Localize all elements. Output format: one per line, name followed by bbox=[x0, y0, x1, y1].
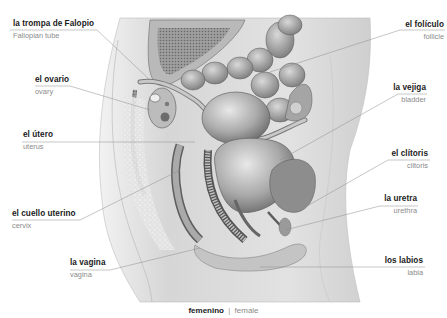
caption-en: female bbox=[235, 306, 259, 315]
label-en: follicle bbox=[405, 33, 444, 40]
label-fallopian-tube: la trompa de Falopio Fallopian tube bbox=[13, 20, 94, 39]
label-es: el folículo bbox=[405, 21, 444, 29]
label-en: uterus bbox=[23, 143, 53, 150]
label-es: la trompa de Falopio bbox=[13, 20, 94, 28]
label-en: ovary bbox=[35, 88, 69, 95]
label-es: los labios bbox=[385, 257, 423, 265]
label-en: vagina bbox=[70, 271, 106, 278]
female-pelvis-illustration bbox=[0, 0, 447, 318]
label-es: el útero bbox=[23, 131, 53, 139]
label-bladder: la vejiga bladder bbox=[393, 84, 426, 103]
ovary-left bbox=[148, 88, 176, 128]
uterus-organ bbox=[202, 92, 270, 144]
label-es: la vagina bbox=[70, 259, 106, 267]
diagram-caption: femenino | female bbox=[0, 307, 447, 315]
label-clitoris: el clítoris clitoris bbox=[392, 150, 429, 169]
caption-separator: | bbox=[228, 306, 230, 315]
label-es: el clítoris bbox=[392, 150, 429, 158]
label-urethra: la uretra urethra bbox=[384, 195, 417, 214]
label-es: el cuello uterino bbox=[12, 210, 76, 218]
anatomy-diagram: la trompa de Falopio Fallopian tube el o… bbox=[0, 0, 447, 318]
caption-es: femenino bbox=[188, 306, 224, 315]
label-ovary: el ovario ovary bbox=[35, 76, 69, 95]
label-en: labia bbox=[385, 269, 423, 276]
label-es: la uretra bbox=[384, 195, 417, 203]
label-en: cervix bbox=[12, 222, 76, 229]
label-es: la vejiga bbox=[393, 84, 426, 92]
label-follicle: el folículo follicle bbox=[405, 21, 444, 40]
label-en: clitoris bbox=[392, 162, 429, 169]
label-es: el ovario bbox=[35, 76, 69, 84]
label-uterus: el útero uterus bbox=[23, 131, 53, 150]
label-vagina: la vagina vagina bbox=[70, 259, 106, 278]
label-en: bladder bbox=[393, 96, 426, 103]
label-labia: los labios labia bbox=[385, 257, 423, 276]
label-en: urethra bbox=[384, 207, 417, 214]
label-en: Fallopian tube bbox=[13, 32, 94, 39]
label-cervix: el cuello uterino cervix bbox=[12, 210, 76, 229]
